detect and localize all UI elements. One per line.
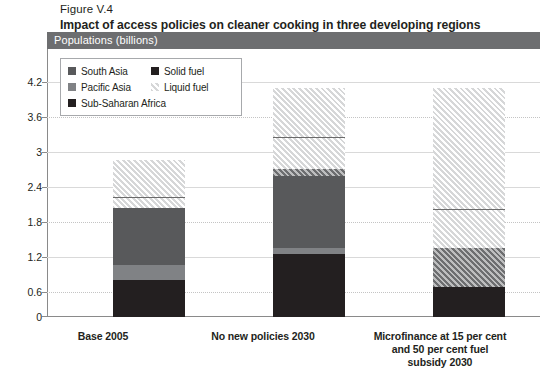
y-tick-0-6 [42, 292, 47, 293]
x-axis-label-no-new-policies: No new policies 2030 [200, 330, 326, 343]
segment-south-asia-liquid[interactable] [113, 197, 185, 208]
y-tick-label-3-6: 3.6 [2, 111, 42, 123]
x-label-line2: and 50 per cent fuel [360, 343, 520, 356]
y-tick-label-2-4: 2.4 [2, 181, 42, 193]
y-tick-1-2 [42, 257, 47, 258]
hatched-square-icon [151, 83, 159, 91]
solid-fill-square-icon [151, 67, 159, 75]
y-axis-line [47, 49, 48, 317]
y-tick-label-3: 3 [2, 146, 42, 158]
y-tick-0 [42, 316, 47, 317]
y-tick-3-6 [42, 117, 47, 118]
chart-legend: South Asia Solid fuel Pacific Asia [60, 58, 242, 116]
bar-no-new-policies-2030[interactable] [273, 88, 345, 317]
y-tick-1-8 [42, 222, 47, 223]
figure-title: Impact of access policies on cleaner coo… [60, 18, 480, 32]
segment-south-asia-solid[interactable] [113, 208, 185, 265]
segment-sub-saharan-solid[interactable] [113, 280, 185, 317]
y-tick-label-0-6: 0.6 [2, 286, 42, 298]
legend-label: Pacific Asia [81, 82, 131, 93]
segment-pacific-asia-solid[interactable] [113, 265, 185, 280]
bar-base-2005[interactable] [113, 160, 185, 317]
segment-pacific-asia-liquid[interactable] [433, 248, 505, 287]
legend-item-sub-saharan-africa[interactable]: Sub-Saharan Africa [68, 96, 238, 110]
y-tick-label-4-2: 4.2 [2, 76, 42, 88]
y-tick-3 [42, 152, 47, 153]
x-axis-label-base-2005: Base 2005 [53, 330, 153, 343]
mid-gray-square-icon [68, 67, 76, 75]
segment-pacific-asia-liquid[interactable] [273, 169, 345, 176]
legend-label: Sub-Saharan Africa [81, 98, 166, 109]
segment-sub-saharan-liquid[interactable] [433, 88, 505, 209]
legend-item-south-asia[interactable]: South Asia [68, 64, 151, 78]
y-tick-2-4 [42, 187, 47, 188]
segment-sub-saharan-solid[interactable] [433, 287, 505, 317]
bar-microfinance-2030[interactable] [433, 88, 505, 317]
light-gray-square-icon [68, 83, 76, 91]
figure-number: Figure V.4 [60, 3, 113, 15]
legend-label: Liquid fuel [164, 82, 209, 93]
legend-item-liquid-fuel[interactable]: Liquid fuel [151, 80, 234, 94]
x-label-line3: subsidy 2030 [360, 356, 520, 369]
segment-sub-saharan-solid[interactable] [273, 254, 345, 317]
x-label-line1: Base 2005 [53, 330, 153, 343]
y-tick-4-2 [42, 82, 47, 83]
segment-south-asia-liquid[interactable] [273, 137, 345, 169]
legend-item-pacific-asia[interactable]: Pacific Asia [68, 80, 151, 94]
segment-south-asia-solid[interactable] [273, 176, 345, 251]
dark-square-icon [68, 99, 76, 107]
x-label-line1: No new policies 2030 [200, 330, 326, 343]
chart-banner: Populations (billions) [47, 32, 540, 49]
legend-item-solid-fuel[interactable]: Solid fuel [151, 64, 234, 78]
x-label-line1: Microfinance at 15 per cent [360, 330, 520, 343]
y-axis-title: Populations (billions) [54, 34, 158, 46]
legend-label: South Asia [81, 66, 128, 77]
segment-south-asia-liquid[interactable] [433, 209, 505, 248]
segment-sub-saharan-liquid[interactable] [273, 88, 345, 137]
y-tick-label-1-8: 1.8 [2, 216, 42, 228]
segment-sub-saharan-liquid[interactable] [113, 160, 185, 197]
legend-label: Solid fuel [164, 66, 204, 77]
y-tick-label-1-2: 1.2 [2, 251, 42, 263]
x-axis-label-microfinance: Microfinance at 15 per cent and 50 per c… [360, 330, 520, 369]
y-tick-label-0: 0 [2, 311, 42, 323]
y-axis-labels: 4.2 3.6 3 2.4 1.8 1.2 0.6 0 [0, 49, 42, 317]
